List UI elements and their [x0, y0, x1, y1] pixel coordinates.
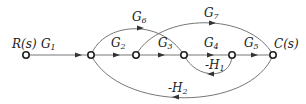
signal-flow-graph: R(s) C(s) G1 G2 G3 G4 G5 G6 G7 -H1 -H2: [0, 0, 306, 104]
arrow-g2-icon: [113, 53, 120, 58]
node-input-r: [23, 52, 29, 58]
node-3: [133, 52, 139, 58]
arrow-g3-icon: [158, 53, 165, 58]
input-label: R(s): [11, 37, 37, 51]
arrow-h1-icon: [207, 72, 214, 77]
arrow-g7-icon: [209, 21, 216, 26]
node-2: [88, 52, 94, 58]
gain-label-g1: G1: [41, 37, 56, 52]
gain-label-g5: G5: [244, 36, 259, 51]
node-5: [229, 52, 235, 58]
gain-label-h2: -H2: [168, 81, 188, 96]
gain-label-g2: G2: [111, 36, 126, 51]
arrow-g6-icon: [137, 26, 144, 31]
gain-label-g7: G7: [204, 6, 220, 21]
gain-label-g3: G3: [158, 36, 173, 51]
arrow-g4-icon: [207, 53, 214, 58]
arrow-g5-icon: [251, 53, 258, 58]
node-4: [181, 52, 187, 58]
output-label: C(s): [274, 37, 299, 51]
labels: R(s) C(s) G1 G2 G3 G4 G5 G6 G7 -H1 -H2: [11, 6, 299, 96]
node-output-c: [270, 52, 276, 58]
gain-label-h1: -H1: [205, 58, 225, 73]
gain-label-g6: G6: [132, 10, 147, 25]
arrow-g1-icon: [75, 53, 82, 58]
gain-label-g4: G4: [204, 36, 219, 51]
arrow-h2-icon: [172, 95, 179, 100]
